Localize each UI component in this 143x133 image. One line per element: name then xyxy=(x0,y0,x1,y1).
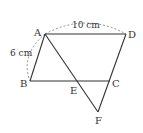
point-label-f: F xyxy=(95,115,102,126)
diagram-svg: A D B C E F 10 cm 6 cm xyxy=(0,0,143,133)
point-label-b: B xyxy=(20,78,27,89)
point-label-a: A xyxy=(33,27,42,38)
segment-df xyxy=(98,34,126,112)
measurement-ab: 6 cm xyxy=(10,48,33,58)
point-label-d: D xyxy=(128,29,136,40)
point-label-c: C xyxy=(112,78,120,89)
measurement-ad: 10 cm xyxy=(72,20,100,30)
segment-ab xyxy=(30,34,45,81)
segment-af xyxy=(45,34,98,112)
point-label-e: E xyxy=(70,85,77,96)
geometry-diagram: A D B C E F 10 cm 6 cm xyxy=(0,0,143,133)
